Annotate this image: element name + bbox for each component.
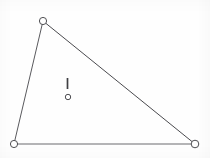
left-edge xyxy=(14,21,43,144)
hypotenuse-edge xyxy=(43,21,195,144)
vertex-marker-top[interactable] xyxy=(39,17,46,24)
figure-canvas xyxy=(0,0,210,158)
vertex-marker-bottom-right[interactable] xyxy=(191,140,199,148)
triangle-diagram xyxy=(0,0,210,158)
vertex-marker-bottom-left[interactable] xyxy=(10,140,17,147)
interior-dot-marker xyxy=(65,94,70,99)
